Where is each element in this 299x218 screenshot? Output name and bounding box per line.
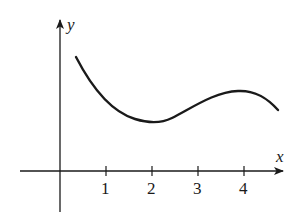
x-axis-label: x — [276, 148, 284, 165]
x-tick-label-2: 2 — [147, 180, 156, 197]
x-tick-label-3: 3 — [193, 180, 202, 197]
function-graph: y x 1 2 3 4 — [0, 0, 299, 218]
function-curve — [76, 57, 278, 122]
y-axis-label: y — [67, 16, 75, 33]
x-tick-label-1: 1 — [101, 180, 110, 197]
x-tick-label-4: 4 — [239, 180, 248, 197]
